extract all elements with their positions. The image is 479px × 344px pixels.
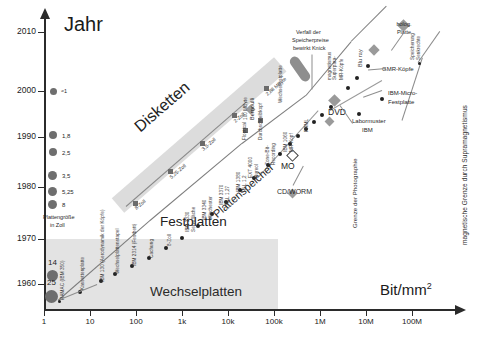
x-tick — [182, 310, 183, 316]
point-label-wechselfestplatte: Wechselfestplatte — [279, 65, 284, 103]
point-label-ibm1380: IBM 1380 — [237, 172, 242, 192]
legend-marker — [48, 187, 57, 196]
optical-marker — [325, 117, 335, 127]
x-tick-label: 1k — [165, 318, 199, 326]
annotation-cd-worm: CD/WORM — [277, 188, 312, 195]
point-label-mr-koepfe: MR-Köpfe — [340, 59, 345, 80]
data-point — [180, 236, 184, 240]
annotation-gmr: GMR-Köpfe — [382, 66, 414, 72]
legend-label: 5,25 — [62, 189, 74, 195]
point-label-cachung: Cachung — [150, 239, 155, 258]
y-axis-arrow — [40, 8, 50, 19]
data-point — [278, 152, 282, 156]
x-tick-label: 10k — [211, 318, 245, 326]
legend-caption-line1: Plattengröße — [43, 215, 75, 221]
point-label-ext4000: EXT 4000 — [249, 157, 254, 178]
legend-caption-line2: in Zoll — [50, 223, 65, 229]
x-tick-label: 1 — [27, 318, 61, 326]
y-tick-label: 1990 — [2, 132, 36, 141]
point-label-recording: Recording — [272, 143, 277, 165]
x-axis-title-exponent: 2 — [427, 281, 432, 291]
point-label-prml: PRML — [305, 119, 310, 132]
point-label-senkrechte2: Speicherung — [411, 33, 416, 60]
annotation-leader-line — [312, 55, 313, 90]
point-label-ibm3340: IBM 3340 — [203, 200, 208, 220]
legend-label: 14 — [48, 259, 57, 267]
point-label-mr-kopf: MR-Kopf — [290, 133, 295, 152]
annotation-knick-line2: Speicherpreise — [292, 38, 329, 44]
x-axis-line — [44, 309, 456, 311]
x-axis-arrow — [455, 305, 466, 315]
legend-marker — [48, 200, 57, 209]
data-point — [366, 64, 370, 68]
x-tick-label: 100M — [395, 318, 429, 326]
y-tick-label: 2010 — [2, 27, 36, 36]
legend-label: 2,5 — [62, 150, 70, 156]
region-label-disketten: Disketten — [132, 79, 193, 135]
data-point — [355, 76, 359, 80]
data-point — [164, 246, 168, 250]
legend-marker — [49, 148, 57, 156]
y-tick — [38, 137, 45, 138]
annotation-photo-limit: Grenze der Photographie — [352, 158, 358, 228]
legend-label: 3,5 — [62, 173, 70, 179]
x-tick — [44, 310, 45, 316]
point-label-superpara2: magnetismus — [328, 52, 333, 80]
y-tick — [38, 284, 45, 285]
point-label-blu-ray: Blu ray — [358, 49, 364, 67]
point-label-kassettenplatte: Kassettenplatte — [81, 257, 86, 290]
trend-curve-segment — [351, 6, 387, 42]
data-point — [380, 97, 384, 101]
legend-marker — [45, 290, 58, 303]
y-tick — [38, 32, 45, 33]
point-label-ibm3330: IBM 3330 — [186, 212, 191, 232]
y-tick — [38, 239, 45, 240]
y-tick — [38, 91, 45, 92]
annotation-knick-line1: Verfall der — [296, 30, 321, 36]
y-axis-line — [44, 18, 46, 310]
data-point — [418, 62, 421, 65]
region-label-wechselplatten: Wechselplatten — [150, 285, 242, 299]
legend-marker — [48, 171, 57, 180]
data-point — [357, 112, 361, 116]
y-tick — [38, 187, 45, 188]
annotation-labormuster-line1: Labormuster — [352, 118, 386, 124]
legend-label: 8 — [62, 202, 65, 208]
x-tick-label: 100k — [257, 318, 291, 326]
x-tick — [90, 310, 91, 316]
y-tick-label: 2000 — [2, 86, 36, 95]
annotation-holog-line1: holog. — [390, 22, 418, 28]
point-label-superpara1: Superpara- — [333, 56, 338, 80]
x-tick — [136, 310, 137, 316]
data-point — [320, 113, 324, 117]
point-label-senkrechte1: Senkrechte — [417, 36, 422, 60]
x-axis-title: Bit/mm2 — [380, 282, 432, 297]
annotation-knick-line3: bewirkt Knick — [293, 46, 325, 52]
x-tick — [228, 310, 229, 316]
point-label-wechselplattenstapel: Wechselplattenstapel — [116, 228, 121, 274]
annotation-magnetic-limit: magnetische Grenze durch Supramagnetismu… — [462, 105, 469, 245]
legend-marker — [50, 88, 57, 95]
data-point — [346, 86, 350, 90]
point-label-ibm3370: IBM 3370 — [220, 185, 225, 205]
point-label-winchester: Winchester — [209, 196, 214, 220]
x-tick — [366, 310, 367, 316]
chart-canvas: Jahr 2010 2000 1990 1980 1970 1960 Bit/m… — [0, 0, 479, 344]
x-tick-label: 10 — [73, 318, 107, 326]
blu-ray-marker — [368, 44, 379, 55]
y-tick-label: 1960 — [2, 279, 36, 288]
data-point — [58, 300, 61, 303]
point-label-100mbyte: 100 MByte — [244, 97, 249, 120]
legend-label: 25 — [47, 279, 56, 287]
data-point — [312, 120, 316, 124]
point-label-rll127: RLL 1,27 — [226, 186, 231, 205]
point-label-ibm130: IBM 130 (Aerodynamik der Köpfe) — [101, 209, 106, 282]
x-tick-label: 1M — [303, 318, 337, 326]
point-label-ibm2314: IBM 2314 (Festbett) — [133, 224, 138, 267]
y-axis-title: Jahr — [64, 14, 103, 34]
y-tick-label: 1980 — [2, 182, 36, 191]
point-label-rll12: RLL 1,2 — [243, 175, 248, 192]
wechselfestplatte-capsule — [288, 55, 312, 84]
x-axis-title-main: Bit/mm — [380, 281, 427, 298]
point-label-servoflaeche: Servofläche — [192, 207, 197, 232]
